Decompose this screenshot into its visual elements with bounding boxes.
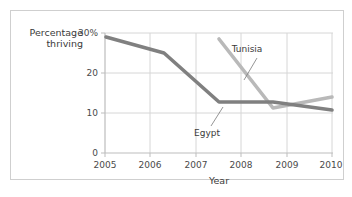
xtick-label-2008: 2008: [230, 160, 253, 170]
xtick-label-2009: 2009: [276, 160, 299, 170]
ytick-label-20: 20: [87, 68, 99, 78]
x-axis-title: Year: [208, 175, 229, 186]
xtick-label-2007: 2007: [185, 160, 208, 170]
x-axis-ticks: [105, 153, 332, 157]
figure-container: 30% 20 10 0 2005 2006 2007 2008 2009 201…: [0, 0, 352, 197]
series-label-egypt: Egypt: [194, 128, 220, 138]
line-chart: 30% 20 10 0 2005 2006 2007 2008 2009 201…: [0, 0, 352, 197]
series-label-tunisia: Tunisia: [231, 44, 263, 54]
ytick-label-10: 10: [87, 108, 99, 118]
xtick-label-2006: 2006: [139, 160, 162, 170]
y-axis-title-line2: thriving: [46, 38, 83, 49]
xtick-label-2010: 2010: [320, 160, 343, 170]
ytick-label-0: 0: [92, 148, 98, 158]
y-axis-title-line1: Percentage: [30, 27, 84, 38]
xtick-label-2005: 2005: [94, 160, 117, 170]
